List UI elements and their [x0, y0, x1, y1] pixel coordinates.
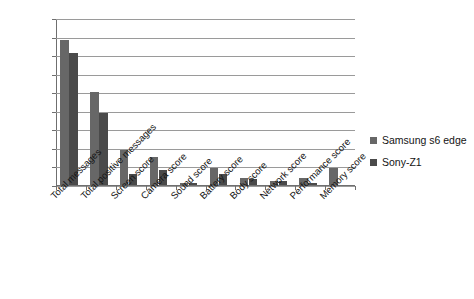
- bar-group: [210, 18, 227, 185]
- legend-swatch-icon: [370, 159, 377, 166]
- bar[interactable]: [60, 40, 68, 185]
- bar-group: [270, 18, 287, 185]
- legend-label: Sony-Z1: [382, 157, 422, 168]
- bar[interactable]: [90, 92, 98, 185]
- legend-swatch-icon: [370, 137, 377, 144]
- x-tick-mark: [355, 186, 356, 190]
- chart-legend: Samsung s6 edgeSony-Z1: [370, 131, 474, 175]
- legend-item[interactable]: Samsung s6 edge: [370, 131, 474, 149]
- bar-chart: 9080706050403020100 Total messagesTotal …: [0, 0, 474, 299]
- legend-label: Samsung s6 edge: [382, 135, 467, 146]
- bar-group: [60, 18, 77, 185]
- legend-item[interactable]: Sony-Z1: [370, 153, 474, 171]
